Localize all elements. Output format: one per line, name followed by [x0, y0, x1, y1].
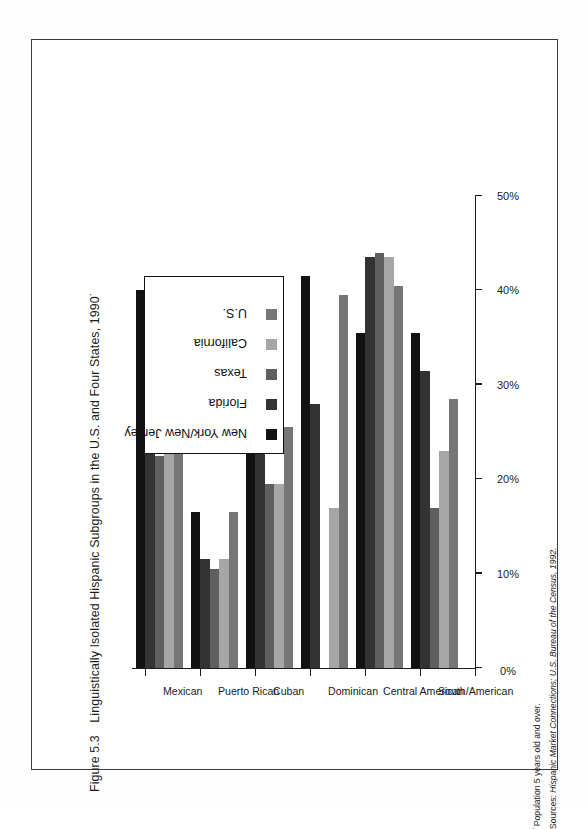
legend-swatch	[266, 429, 277, 440]
figure-frame: Figure 5.3 Linguistically Isolated Hispa…	[31, 39, 558, 770]
bar	[394, 286, 403, 668]
bar	[384, 257, 393, 668]
value-axis-line	[475, 196, 476, 668]
figure-footnote: ˙Population 5 years old and over.	[532, 509, 546, 829]
figure-title: Figure 5.3 Linguistically Isolated Hispa…	[88, 102, 110, 792]
figure-number: Figure 5.3	[88, 735, 102, 792]
value-tick-label: 30%	[497, 379, 519, 391]
value-tick	[475, 667, 482, 668]
chart-legend: New York/New JerseyFloridaTexasCaliforni…	[144, 276, 284, 454]
bar	[191, 512, 200, 668]
category-tick	[310, 669, 311, 676]
value-tick-label: 50%	[497, 190, 519, 202]
bar	[411, 333, 420, 668]
legend-label: New York/New Jersey	[125, 426, 248, 440]
category-label: South/American	[438, 685, 513, 697]
bar	[301, 276, 310, 668]
category-label: Puerto Rican	[218, 685, 279, 697]
legend-label: U.S.	[223, 306, 248, 320]
bar	[210, 569, 219, 668]
source-text: Hispanic Market Connections; U.S. Bureau…	[548, 548, 558, 795]
bar	[420, 371, 429, 668]
bar	[155, 456, 164, 668]
value-tick-label: 10%	[497, 568, 519, 580]
category-label: Cuban	[273, 685, 304, 697]
bar	[339, 295, 348, 668]
plot-area: 0%10%20%30%40%50% MexicanPuerto RicanCub…	[132, 196, 462, 668]
value-tick	[475, 289, 482, 290]
bar	[439, 451, 448, 668]
category-tick	[475, 669, 476, 676]
value-tick-label: 0%	[500, 665, 516, 677]
category-tick	[145, 669, 146, 676]
bar	[229, 512, 238, 668]
category-tick	[365, 669, 366, 676]
bar-chart: 0%10%20%30%40%50% MexicanPuerto RicanCub…	[132, 196, 462, 668]
legend-label: California	[194, 336, 247, 350]
category-label: Mexican	[163, 685, 202, 697]
legend-swatch	[266, 339, 277, 350]
bar	[284, 427, 293, 668]
category-label: Dominican	[328, 685, 378, 697]
bar	[356, 333, 365, 668]
bar	[200, 559, 209, 668]
category-tick	[255, 669, 256, 676]
value-tick	[475, 572, 482, 573]
bar	[219, 559, 228, 668]
bar	[430, 508, 439, 668]
figure-title-text: Linguistically Isolated Hispanic Subgrou…	[88, 292, 102, 723]
legend-swatch	[266, 369, 277, 380]
bar	[449, 399, 458, 668]
source-label: Sources:	[548, 795, 558, 829]
bar	[246, 437, 255, 668]
bar	[274, 484, 283, 668]
bar	[265, 484, 274, 668]
value-tick	[475, 383, 482, 384]
bar	[164, 418, 173, 668]
value-tick-label: 40%	[497, 284, 519, 296]
bar	[365, 257, 374, 668]
bar	[310, 404, 319, 668]
category-tick	[420, 669, 421, 676]
legend-swatch	[266, 309, 277, 320]
value-tick-label: 20%	[497, 473, 519, 485]
bar	[145, 446, 154, 668]
bar	[329, 508, 338, 668]
figure-source: Sources: Hispanic Market Connections; U.…	[548, 489, 562, 829]
legend-swatch	[266, 399, 277, 410]
value-tick	[475, 195, 482, 196]
value-tick	[475, 478, 482, 479]
footnote-text: ˙Population 5 years old and over.	[532, 703, 542, 829]
category-tick	[200, 669, 201, 676]
bar	[174, 446, 183, 668]
bar	[375, 253, 384, 668]
legend-label: Florida	[209, 396, 248, 410]
legend-label: Texas	[214, 366, 247, 380]
